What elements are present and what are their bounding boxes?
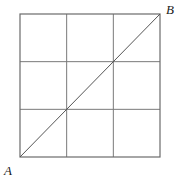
vertex-label-b: B xyxy=(166,3,174,16)
lattice-diagram xyxy=(0,0,182,188)
vertex-label-a: A xyxy=(4,164,12,177)
figure-canvas: A B xyxy=(0,0,182,188)
figure-background xyxy=(0,0,182,188)
